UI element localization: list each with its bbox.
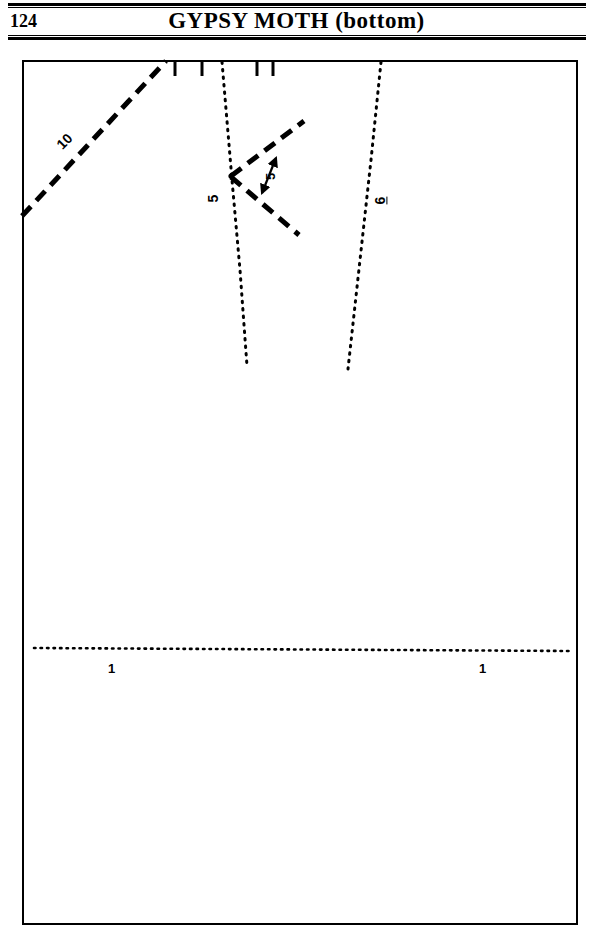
page-title: GYPSY MOTH (bottom) [0,9,593,33]
header-rule-bottom-thick [8,37,586,40]
label-placement-line-6: 6 [374,197,387,205]
pattern-piece-outline [22,60,578,925]
header-rule-top [8,3,586,6]
pattern-page: 124 GYPSY MOTH (bottom) [0,0,593,943]
label-grain-one-left: 1 [108,662,115,675]
label-grain-one-right: 1 [479,662,486,675]
label-fold-line-5: 5 [207,195,220,203]
header-rule-bottom-thin [8,35,586,36]
label-dart-width-5: 5 [264,173,277,180]
